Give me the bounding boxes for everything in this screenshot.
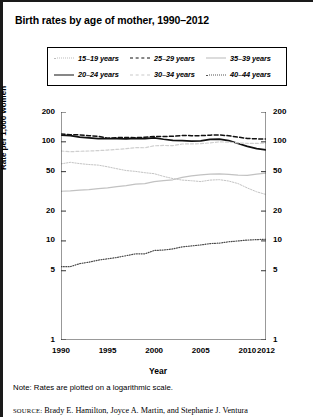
y-tick-label-left: 200 bbox=[29, 107, 55, 116]
legend-line-swatch-icon bbox=[54, 71, 74, 79]
y-tick-label-left: 50 bbox=[29, 166, 55, 175]
legend-item-label: 40–44 years bbox=[230, 70, 271, 79]
chart-note: Note: Rates are plotted on a logarithmic… bbox=[13, 383, 173, 392]
x-tick-label: 2000 bbox=[141, 346, 167, 355]
legend-line-swatch-icon bbox=[206, 71, 226, 79]
x-tick-label: 2005 bbox=[188, 346, 214, 355]
y-tick-label-right: 50 bbox=[273, 166, 299, 175]
y-tick-label-right: 200 bbox=[273, 107, 299, 116]
legend-item-20-24[interactable]: 20–24 years bbox=[54, 70, 130, 79]
legend-item-35-39[interactable]: 35–39 years bbox=[206, 54, 282, 63]
y-tick-label-right: 100 bbox=[273, 136, 299, 145]
tick-layer bbox=[61, 112, 266, 340]
page-title: Birth rates by age of mother, 1990–2012 bbox=[15, 14, 209, 26]
series-layer bbox=[61, 134, 266, 267]
y-tick-label-left: 10 bbox=[29, 235, 55, 244]
legend-item-label: 20–24 years bbox=[78, 70, 119, 79]
y-tick-label-right: 20 bbox=[273, 206, 299, 215]
y-tick-label-right: 10 bbox=[273, 235, 299, 244]
y-axis-label: Rate per 1,000 women bbox=[0, 86, 8, 170]
legend-line-swatch-icon bbox=[54, 54, 74, 62]
chart-canvas bbox=[61, 112, 266, 340]
legend-item-25-29[interactable]: 25–29 years bbox=[130, 54, 206, 63]
legend-item-15-19[interactable]: 15–19 years bbox=[54, 54, 130, 63]
legend-item-label: 30–34 years bbox=[154, 70, 195, 79]
legend-line-swatch-icon bbox=[206, 54, 226, 62]
plot-area bbox=[61, 112, 266, 340]
y-tick-label-left: 20 bbox=[29, 206, 55, 215]
series-line-40-44-years bbox=[61, 239, 266, 266]
legend-grid: 15–19 years25–29 years35–39 years20–24 y… bbox=[48, 48, 286, 85]
legend-item-30-34[interactable]: 30–34 years bbox=[130, 70, 206, 79]
chart-source: SOURCE: Brady E. Hamilton, Joyce A. Mart… bbox=[13, 406, 248, 415]
legend-item-label: 15–19 years bbox=[78, 54, 119, 63]
legend-item-40-44[interactable]: 40–44 years bbox=[206, 70, 282, 79]
x-tick-label: 2012 bbox=[253, 346, 279, 355]
y-tick-label-right: 5 bbox=[273, 265, 299, 274]
x-axis-label: Year bbox=[3, 366, 313, 376]
legend-line-swatch-icon bbox=[130, 71, 150, 79]
y-tick-label-right: 1 bbox=[273, 335, 299, 344]
source-text: Brady E. Hamilton, Joyce A. Martin, and … bbox=[44, 406, 248, 415]
figure-panel: Birth rates by age of mother, 1990–2012 … bbox=[0, 0, 313, 417]
x-tick-label: 1990 bbox=[48, 346, 74, 355]
y-tick-label-left: 5 bbox=[29, 265, 55, 274]
source-prefix: SOURCE: bbox=[13, 407, 42, 414]
legend-item-label: 25–29 years bbox=[154, 54, 195, 63]
y-tick-label-left: 100 bbox=[29, 136, 55, 145]
chart-legend: 15–19 years25–29 years35–39 years20–24 y… bbox=[47, 47, 287, 86]
legend-item-label: 35–39 years bbox=[230, 54, 271, 63]
legend-line-swatch-icon bbox=[130, 54, 150, 62]
y-tick-label-left: 1 bbox=[29, 335, 55, 344]
x-tick-label: 1995 bbox=[95, 346, 121, 355]
